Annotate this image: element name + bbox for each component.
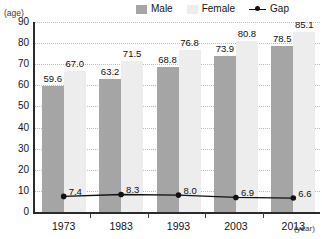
x-axis-tick-mark <box>148 213 149 218</box>
y-axis-tick-label: 80 <box>18 38 29 48</box>
gridline <box>35 22 320 23</box>
chart-container: MaleFemaleGap (age) (year) 0102030405060… <box>0 0 322 239</box>
legend-line-marker-icon <box>249 5 266 14</box>
legend-item-female[interactable]: Female <box>187 4 235 14</box>
legend-label: Gap <box>270 4 289 14</box>
bar-value-label-female: 80.8 <box>238 29 257 39</box>
bar-value-label-male: 78.5 <box>273 34 292 44</box>
x-axis-tick-label: 1973 <box>52 220 75 232</box>
x-axis-tick-label: 2003 <box>224 220 247 232</box>
bar-male[interactable] <box>42 86 64 212</box>
x-axis-tick-mark <box>263 213 264 218</box>
plot-area: 0102030405060708090 67.059.671.563.276.8… <box>33 22 320 212</box>
gap-value-label: 7.4 <box>69 187 82 197</box>
y-axis-tick-label: 50 <box>18 101 29 111</box>
y-axis-tick-label: 0 <box>23 207 29 217</box>
legend-swatch-icon <box>187 5 198 14</box>
bar-value-label-male: 63.2 <box>101 67 120 77</box>
x-axis-tick-label: 2013 <box>282 220 305 232</box>
bar-value-label-male: 73.9 <box>216 44 235 54</box>
legend-item-gap[interactable]: Gap <box>249 4 289 14</box>
gap-value-label: 6.9 <box>241 188 254 198</box>
legend-swatch-icon <box>136 5 147 14</box>
y-axis-tick-label: 60 <box>18 80 29 90</box>
x-axis-tick-mark <box>205 213 206 218</box>
y-axis-tick-label: 10 <box>18 186 29 196</box>
bar-female[interactable] <box>293 32 315 212</box>
x-axis-tick-label: 1993 <box>167 220 190 232</box>
chart-legend: MaleFemaleGap <box>136 2 318 16</box>
y-axis-tick-label: 40 <box>18 123 29 133</box>
x-axis-tick-mark <box>90 213 91 218</box>
bar-female[interactable] <box>236 41 258 212</box>
bar-value-label-male: 68.8 <box>158 55 177 65</box>
y-axis-tick-label: 20 <box>18 165 29 175</box>
bar-value-label-female: 85.1 <box>295 20 314 30</box>
legend-label: Female <box>202 4 235 14</box>
bar-male[interactable] <box>271 46 293 212</box>
gap-value-label: 8.0 <box>184 186 197 196</box>
y-axis-tick-label: 90 <box>18 17 29 27</box>
bar-male[interactable] <box>157 67 179 212</box>
bar-male[interactable] <box>214 56 236 212</box>
y-axis-tick-label: 70 <box>18 59 29 69</box>
legend-label: Male <box>151 4 173 14</box>
bar-value-label-female: 76.8 <box>180 38 199 48</box>
gap-value-label: 6.6 <box>298 189 311 199</box>
y-axis-tick-label: 30 <box>18 144 29 154</box>
x-axis-tick-label: 1983 <box>109 220 132 232</box>
gap-value-label: 8.3 <box>126 185 139 195</box>
bar-value-label-female: 67.0 <box>65 59 84 69</box>
bar-value-label-male: 59.6 <box>43 74 62 84</box>
bar-male[interactable] <box>99 79 121 212</box>
bar-value-label-female: 71.5 <box>123 49 142 59</box>
legend-item-male[interactable]: Male <box>136 4 173 14</box>
y-axis-line <box>33 22 35 212</box>
x-axis-line <box>33 212 320 214</box>
